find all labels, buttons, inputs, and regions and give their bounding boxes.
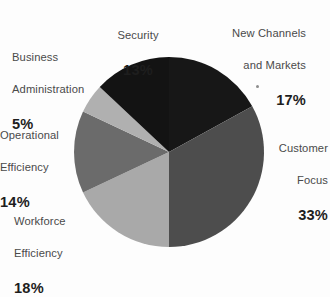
slice-label-workforce-eff-percent: 18% bbox=[14, 280, 100, 297]
slice-label-customer-focus-percent: 33% bbox=[262, 207, 328, 224]
slice-label-workforce-eff-line2: Efficiency bbox=[14, 247, 100, 260]
slice-label-business-admin-line2: Administration bbox=[12, 83, 118, 96]
slice-label-new-channels-and-markets: New Channels and Markets 17% bbox=[196, 8, 306, 128]
slice-label-operational-eff-line1: Operational bbox=[0, 129, 80, 142]
slice-label-workforce-efficiency: Workforce Efficiency 18% bbox=[14, 196, 100, 297]
slice-label-business-admin-line1: Business bbox=[12, 51, 118, 64]
slice-label-new-channels-line2: and Markets bbox=[196, 59, 306, 72]
slice-label-workforce-eff-line1: Workforce bbox=[14, 215, 100, 228]
slice-label-operational-eff-line2: Efficiency bbox=[0, 161, 80, 174]
slice-label-customer-focus-line1: Customer bbox=[262, 142, 328, 155]
scan-speck-artifact bbox=[256, 85, 259, 88]
slice-label-customer-focus-line2: Focus bbox=[262, 174, 328, 187]
slice-label-new-channels-percent: 17% bbox=[196, 92, 306, 109]
slice-label-new-channels-line1: New Channels bbox=[196, 27, 306, 40]
slice-label-customer-focus: Customer Focus 33% bbox=[262, 123, 328, 243]
